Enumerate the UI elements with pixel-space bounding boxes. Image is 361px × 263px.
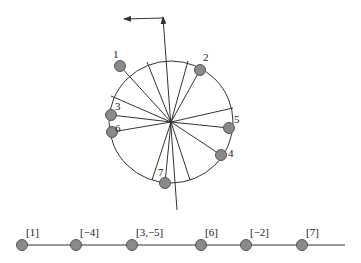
node-5: [224, 123, 235, 134]
spoke-line: [171, 122, 229, 128]
circular-arrangement-diagram: 1236547 [1][−4][3,−5][6][−2][7]: [0, 0, 361, 263]
horizontal-arrow: [124, 18, 163, 19]
node-1: [115, 61, 126, 72]
spoke-line: [112, 122, 171, 132]
chain-node-label: [−2]: [250, 226, 269, 238]
node-2: [195, 65, 206, 76]
chain-node: [241, 240, 252, 251]
chain-node: [127, 240, 138, 251]
chain-node: [196, 240, 207, 251]
node-label-5: 5: [234, 113, 240, 125]
node-label-2: 2: [203, 51, 209, 63]
node-4: [216, 150, 227, 161]
chain-node-label: [−4]: [80, 226, 99, 238]
spoke-line: [120, 66, 171, 122]
chain-node-label: [6]: [205, 226, 218, 238]
chain-node-label: [3,−5]: [136, 226, 163, 238]
spoke-line: [171, 122, 221, 155]
node-label-6: 6: [115, 122, 121, 134]
node-label-1: 1: [113, 48, 119, 60]
node-label-3: 3: [115, 100, 121, 112]
chain-node-label: [1]: [26, 226, 39, 238]
chain-node: [17, 240, 28, 251]
node-label-7: 7: [158, 166, 164, 178]
spoke-line: [171, 108, 233, 122]
node-7: [160, 178, 171, 189]
chain-node-label: [7]: [306, 226, 319, 238]
spoke-line: [171, 70, 200, 122]
chain-node: [297, 240, 308, 251]
spoke-line: [171, 61, 188, 122]
chain-node: [71, 240, 82, 251]
chain-nodes: [1][−4][3,−5][6][−2][7]: [17, 226, 319, 251]
node-label-4: 4: [228, 147, 234, 159]
